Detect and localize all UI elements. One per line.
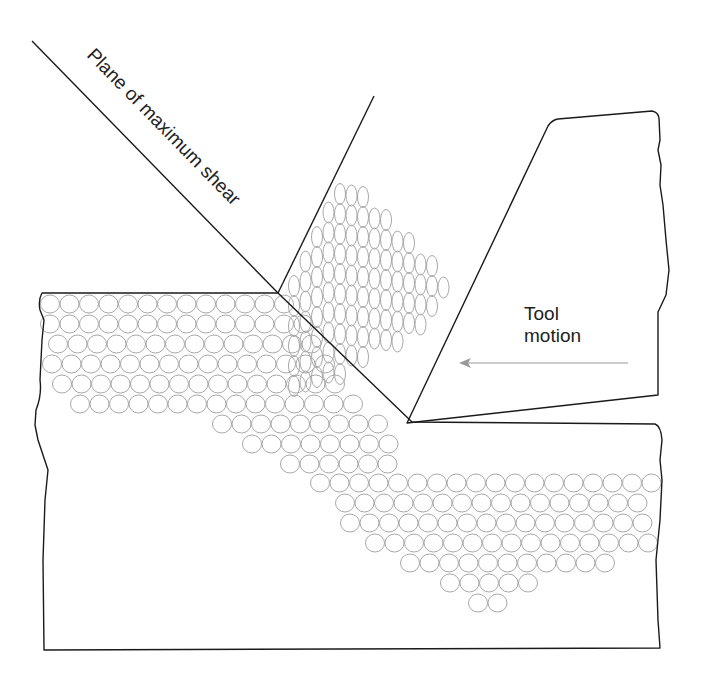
grain xyxy=(415,314,426,335)
grain xyxy=(518,554,537,572)
grain xyxy=(335,224,346,245)
grain xyxy=(82,355,101,373)
grain xyxy=(609,494,628,512)
grain xyxy=(346,205,357,226)
grain xyxy=(381,330,392,351)
tool-motion-label-line2: motion xyxy=(524,325,581,346)
shear-plane-line xyxy=(32,41,278,293)
grain xyxy=(561,534,580,552)
grain xyxy=(72,375,91,393)
grain xyxy=(224,335,243,353)
grain xyxy=(589,494,608,512)
grain xyxy=(339,455,358,473)
grain xyxy=(209,375,228,393)
grain xyxy=(415,294,426,315)
grain xyxy=(499,574,518,592)
grain xyxy=(516,514,535,532)
grain xyxy=(366,534,385,552)
grain xyxy=(428,474,447,492)
grain xyxy=(80,295,99,313)
grain xyxy=(289,276,300,297)
grain xyxy=(246,395,265,413)
grain xyxy=(277,355,296,373)
grain xyxy=(511,494,530,512)
grain xyxy=(594,514,613,532)
grain xyxy=(358,247,369,268)
grain xyxy=(289,376,300,397)
grain xyxy=(440,554,459,572)
grain xyxy=(170,375,189,393)
grain xyxy=(580,534,599,552)
grain xyxy=(336,494,355,512)
grain xyxy=(369,328,380,349)
grain xyxy=(281,455,300,473)
chip-formation-diagram: Plane of maximum shear Tool motion xyxy=(0,0,708,679)
grain xyxy=(628,494,647,512)
grain xyxy=(405,534,424,552)
grain xyxy=(360,514,379,532)
grain xyxy=(404,233,415,254)
grain xyxy=(248,375,267,393)
grain xyxy=(404,293,415,314)
grain xyxy=(244,335,263,353)
grain xyxy=(380,514,399,532)
grain xyxy=(263,335,282,353)
grain xyxy=(519,574,538,592)
grain xyxy=(358,347,369,368)
grain xyxy=(447,474,466,492)
grain xyxy=(121,355,140,373)
grain xyxy=(427,256,438,277)
grain xyxy=(346,325,357,346)
grain xyxy=(642,474,661,492)
grain xyxy=(205,335,224,353)
grain xyxy=(603,474,622,492)
grain xyxy=(43,355,62,373)
diagram-svg: Plane of maximum shear Tool motion xyxy=(0,0,708,679)
grain xyxy=(257,355,276,373)
grain xyxy=(369,474,388,492)
grain xyxy=(392,291,403,312)
grain xyxy=(355,494,374,512)
grain xyxy=(255,315,274,333)
grain xyxy=(71,395,90,413)
grain xyxy=(415,254,426,275)
grain xyxy=(305,395,324,413)
grain xyxy=(346,285,357,306)
grain xyxy=(555,514,574,532)
grain xyxy=(271,415,290,433)
grain xyxy=(459,554,478,572)
grain xyxy=(433,494,452,512)
grain xyxy=(60,295,79,313)
grain xyxy=(414,494,433,512)
grain xyxy=(330,415,349,433)
grain xyxy=(158,295,177,313)
grain xyxy=(160,355,179,373)
grain xyxy=(350,474,369,492)
grain xyxy=(369,228,380,249)
grain xyxy=(458,514,477,532)
grain xyxy=(289,296,300,317)
grain xyxy=(358,207,369,228)
grain xyxy=(600,534,619,552)
grain xyxy=(392,231,403,252)
grain xyxy=(213,415,232,433)
grain xyxy=(392,331,403,352)
grain xyxy=(335,184,346,205)
grain xyxy=(335,304,346,325)
grain xyxy=(498,554,517,572)
grain xyxy=(324,395,343,413)
grain xyxy=(185,335,204,353)
grain xyxy=(369,288,380,309)
cutting-tool xyxy=(407,111,669,423)
grain xyxy=(375,494,394,512)
grain xyxy=(138,315,157,333)
grain xyxy=(401,554,420,572)
grain xyxy=(323,282,334,303)
grain xyxy=(300,291,311,312)
grain xyxy=(189,375,208,393)
grain xyxy=(392,271,403,292)
grain xyxy=(110,395,129,413)
grain xyxy=(300,311,311,332)
grain xyxy=(408,474,427,492)
chip-grains xyxy=(289,184,450,397)
